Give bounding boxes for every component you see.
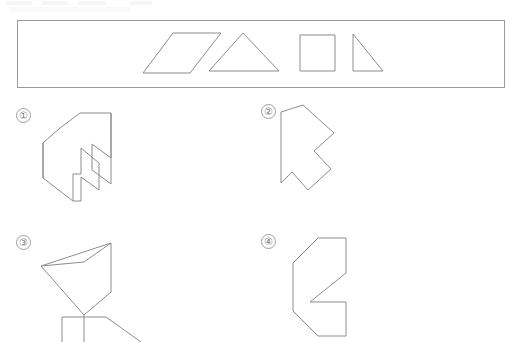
piece-right-triangle-icon[interactable]	[353, 34, 383, 71]
piece-triangle-icon[interactable]	[209, 33, 279, 71]
option-2-label[interactable]: ②	[261, 104, 276, 119]
option-2-figure[interactable]	[281, 105, 334, 190]
option-1-label[interactable]: ①	[16, 108, 31, 123]
option-4-figure[interactable]	[293, 238, 346, 336]
option-2-outline[interactable]	[281, 105, 334, 190]
option-4-label[interactable]: ④	[261, 234, 276, 249]
piece-parallelogram-icon[interactable]	[143, 33, 221, 73]
option-3-figure[interactable]	[41, 243, 141, 342]
option-3-lower-diagonal	[106, 317, 141, 342]
shape-layer	[0, 0, 521, 342]
question-page: ① ② ③ ④	[0, 0, 521, 342]
piece-square-icon[interactable]	[300, 35, 335, 71]
option-1-outline[interactable]	[43, 113, 111, 201]
piece-bank-shapes	[143, 33, 383, 73]
option-3-label[interactable]: ③	[16, 235, 31, 250]
option-4-outline[interactable]	[293, 238, 346, 336]
option-1-figure[interactable]	[43, 113, 111, 201]
option-3-outline[interactable]	[41, 243, 111, 315]
